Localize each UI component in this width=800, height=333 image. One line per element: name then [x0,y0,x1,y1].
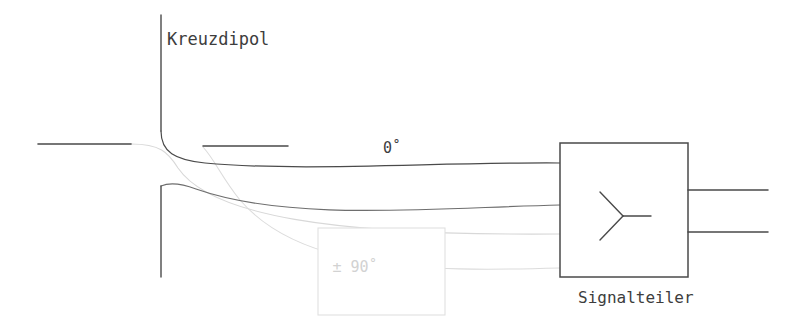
diagram-canvas: Kreuzdipol 0˚ ± 90˚ Signalteiler [0,0,800,333]
signalteiler-box [560,143,688,277]
antenna-label: Kreuzdipol [167,29,269,49]
antenna-feed-network-diagram: Kreuzdipol 0˚ ± 90˚ Signalteiler [0,0,800,333]
splitter-label: Signalteiler [578,288,694,307]
phase-quadrature-label: ± 90˚ [332,258,377,276]
phase-zero-label: 0˚ [383,139,401,157]
